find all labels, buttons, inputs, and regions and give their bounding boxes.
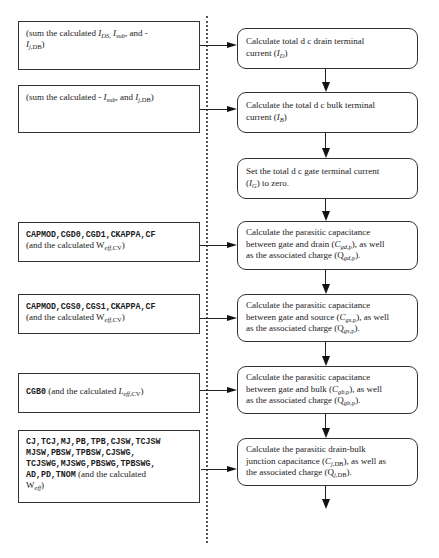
text-run: Calculate the total d c bulk terminal [246,100,375,110]
flow-line [325,270,326,284]
text-run: the associated charge (Q [246,467,334,477]
input-box-cgb: CGB0 (and the calculated Leff,CV) [18,373,200,413]
text-run: (and the calculated [76,469,146,479]
input-box-cgs: CAPMOD,CGS0,CGS1,CKAPPA,CF(and the calcu… [18,294,200,334]
input-box-junction: CJ,TCJ,MJ,PB,TPB,CJSW,TCJSWMJSW,PBSW,TPB… [18,430,200,503]
arrow-right-icon [227,315,237,321]
flow-line [325,69,326,83]
text-run: as the associated charge (Q [246,395,344,405]
text-run: ) [41,39,44,49]
subscript: gd, [340,243,348,250]
text-run: ) [41,480,44,490]
text-run: (sum the calculated - [26,92,103,102]
text-run: Calculate total d c drain terminal [246,36,364,46]
text-run: as the associated charge (Q [246,250,344,260]
arrow-right-icon [227,106,237,112]
text-run: junction capacitance ( [246,456,325,466]
subscript: sub [106,96,115,103]
connector-line [200,390,228,391]
flow-line [325,133,326,148]
arrow-right-icon [227,42,237,48]
text-run: Calculate the parasitic drain-bulk [246,444,366,454]
flow-line [325,342,326,356]
parameter-list: CAPMOD,CGS0,CGS1,CKAPPA,CF [26,302,155,311]
step-cgd: Calculate the parasitic capacitancebetwe… [237,221,418,270]
text-run: ), as well [349,384,382,394]
text-run: ) [284,48,287,58]
subscript: eff, [105,316,113,323]
text-run: (and the calculated W [26,240,105,250]
text-run: ) [122,312,125,322]
text-run: (and the calculated [46,386,118,396]
connector-line [200,109,228,110]
subscript: CV [132,390,141,397]
text-run: W [26,480,35,490]
connector-line [200,45,228,46]
text-run: (and the calculated W [26,312,105,322]
arrow-down-icon [322,284,330,294]
text-run: ). [347,467,352,477]
text-run: , and - [125,28,148,38]
step-gate-current: Set the total d c gate terminal current(… [237,158,418,199]
parameter-list: TCJSWG,MJSWG,PBSWG,TPBSWG, [26,459,155,468]
text-run: as the associated charge (Q [246,323,344,333]
arrow-down-icon [322,148,330,158]
subscript: gb, [338,388,346,395]
arrow-down-icon [322,82,330,92]
subscript: CV [113,244,122,251]
text-run: ) to zero. [257,178,289,188]
text-run: Calculate the parasitic capacitance [246,227,370,237]
parameter-list: MJSW,PBSW,TPBSW,CJSWG, [26,448,136,457]
text-run: current ( [246,48,277,58]
parameter-list: CJ,TCJ,MJ,PB,TPB,CJSW,TCJSW [26,437,160,446]
connector-line [200,318,228,319]
text-run: between gate and bulk ( [246,384,332,394]
text-run: ), as well [356,312,389,322]
arrow-down-icon [322,499,330,509]
arrow-down-icon [322,356,330,366]
arrow-right-icon [227,466,237,472]
flow-line [325,486,326,499]
text-run: ). [355,250,360,260]
flow-line [325,414,326,428]
step-cjdb: Calculate the parasitic drain-bulkjuncti… [237,438,418,486]
subscript: gb, [344,399,352,406]
subscript: eff, [105,244,113,251]
subscript: sub [116,32,125,39]
step-cgs: Calculate the parasitic capacitancebetwe… [237,294,418,342]
arrow-down-icon [322,428,330,438]
text-run: current ( [246,112,277,122]
text-run: ) [284,112,287,122]
input-divider-line [206,16,208,543]
text-run: Calculate the parasitic capacitance [246,300,370,310]
arrow-right-icon [227,242,237,248]
connector-line [200,245,228,246]
text-run: ). [354,323,359,333]
subscript: DS, [101,32,111,39]
text-run: Calculate the parasitic capacitance [246,372,370,382]
flow-line [325,199,326,211]
subscript: DB [142,96,151,103]
text-run: (sum the calculated [26,28,98,38]
parameter-list: AD,PD,TNOM [26,470,76,479]
subscript: CV [113,316,122,323]
arrow-right-icon [227,387,237,393]
text-run: ) [151,92,154,102]
step-bulk-current: Calculate the total d c bulk terminalcur… [237,92,418,133]
subscript: gs, [345,316,352,323]
text-run: ) [141,386,144,396]
text-run: ), as well [352,239,385,249]
subscript: DB [337,471,346,478]
text-run: Set the total d c gate terminal current [246,166,379,176]
text-run: , and [116,92,136,102]
subscript: eff, [123,390,131,397]
page-header-fragment [170,0,439,4]
arrow-down-icon [322,211,330,221]
parameter-list: CAPMOD,CGD0,CGD1,CKAPPA,CF [26,230,155,239]
text-run: ) [122,240,125,250]
input-box-drain: (sum the calculated IDS, Isub, and -Ij,D… [18,21,200,70]
parameter-list: CGB0 [26,387,46,396]
subscript: gd, [344,254,352,261]
step-drain-current: Calculate total d c drain terminalcurren… [237,28,418,69]
text-run: ), as well as [343,456,386,466]
